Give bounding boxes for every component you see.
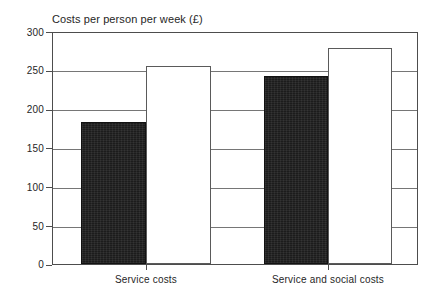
bar-chart: Costs per person per week (£) 300 250 20…	[0, 0, 438, 302]
x-axis-category-label-service-costs: Service costs	[81, 274, 211, 286]
y-axis-tick-label-250: 250	[4, 66, 44, 76]
x-axis-tick-group-1	[146, 265, 147, 270]
x-axis-tick-group-2	[328, 265, 329, 270]
y-axis-tick-label-200: 200	[4, 105, 44, 115]
y-axis-tick-label-0: 0	[4, 260, 44, 270]
bar-service-costs-dark	[81, 122, 146, 264]
y-axis-tick-label-300: 300	[4, 28, 44, 38]
plot-area	[52, 32, 418, 265]
y-axis-tick-label-150: 150	[4, 144, 44, 154]
bar-service-and-social-costs-light	[328, 48, 392, 264]
bar-service-and-social-costs-dark	[264, 76, 328, 264]
x-axis-category-label-service-and-social-costs: Service and social costs	[248, 274, 408, 286]
y-axis-tick-label-50: 50	[4, 222, 44, 232]
chart-title: Costs per person per week (£)	[52, 12, 203, 26]
bar-service-costs-light	[146, 66, 211, 264]
y-axis-tick-mark-0	[46, 265, 52, 266]
y-axis-tick-label-100: 100	[4, 183, 44, 193]
